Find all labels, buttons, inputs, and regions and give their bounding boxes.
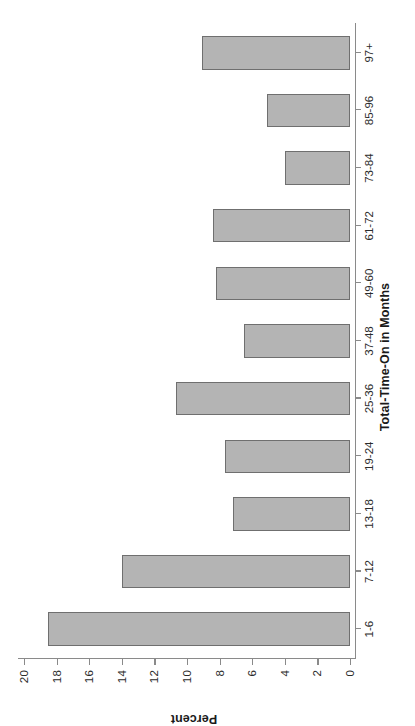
- y-tick-label: 6: [246, 670, 258, 696]
- x-tick-label-37-48: 37-48: [363, 326, 375, 355]
- bar-7-12: [122, 555, 350, 588]
- y-tick-mark: [252, 659, 253, 665]
- x-tick-mark: [356, 340, 361, 341]
- x-tick-label-25-36: 25-36: [363, 384, 375, 413]
- x-tick-label-73-84: 73-84: [363, 153, 375, 182]
- bar-97+: [202, 36, 350, 69]
- bar-73-84: [285, 151, 350, 184]
- y-tick-mark: [122, 659, 123, 665]
- bar-49-60: [216, 267, 350, 300]
- y-tick-mark: [220, 659, 221, 665]
- x-tick-mark: [356, 628, 361, 629]
- y-tick-label: 8: [214, 670, 226, 696]
- bar-13-18: [233, 497, 350, 530]
- x-tick-mark: [356, 167, 361, 168]
- x-tick-label-85-96: 85-96: [363, 96, 375, 125]
- y-tick-label: 18: [51, 670, 63, 696]
- x-tick-mark: [356, 109, 361, 110]
- y-tick-label: 20: [18, 670, 30, 696]
- y-tick-mark: [187, 659, 188, 665]
- y-tick-mark: [57, 659, 58, 665]
- y-tick-label: 4: [279, 670, 291, 696]
- y-tick-label: 12: [148, 670, 160, 696]
- bar-25-36: [176, 382, 350, 415]
- bar-37-48: [244, 324, 350, 357]
- bar-61-72: [213, 209, 350, 242]
- x-tick-label-61-72: 61-72: [363, 211, 375, 240]
- x-tick-label-97+: 97+: [363, 43, 375, 63]
- x-tick-mark: [356, 513, 361, 514]
- x-axis-line: [355, 23, 356, 659]
- plot-area: [24, 24, 350, 658]
- bar-1-6: [48, 612, 350, 645]
- y-tick-mark: [350, 659, 351, 665]
- y-tick-mark: [285, 659, 286, 665]
- y-tick-label: 0: [344, 670, 356, 696]
- y-tick-mark: [154, 659, 155, 665]
- x-tick-mark: [356, 397, 361, 398]
- x-tick-mark: [356, 282, 361, 283]
- y-tick-mark: [89, 659, 90, 665]
- y-tick-label: 2: [311, 670, 323, 696]
- y-axis-title: Percent: [171, 712, 218, 726]
- x-tick-label-7-12: 7-12: [363, 560, 375, 583]
- bar-85-96: [267, 94, 350, 127]
- x-tick-mark: [356, 455, 361, 456]
- y-tick-label: 10: [181, 670, 193, 696]
- y-tick-label: 16: [83, 670, 95, 696]
- x-tick-mark: [356, 52, 361, 53]
- y-tick-mark: [317, 659, 318, 665]
- bar-19-24: [225, 440, 351, 473]
- x-tick-label-49-60: 49-60: [363, 269, 375, 298]
- y-tick-mark: [24, 659, 25, 665]
- x-tick-mark: [356, 225, 361, 226]
- x-tick-label-13-18: 13-18: [363, 499, 375, 528]
- x-tick-label-19-24: 19-24: [363, 442, 375, 471]
- x-tick-mark: [356, 570, 361, 571]
- x-tick-label-1-6: 1-6: [363, 621, 375, 638]
- x-axis-title: Total-Time-On in Months: [378, 0, 392, 714]
- y-tick-label: 14: [116, 670, 128, 696]
